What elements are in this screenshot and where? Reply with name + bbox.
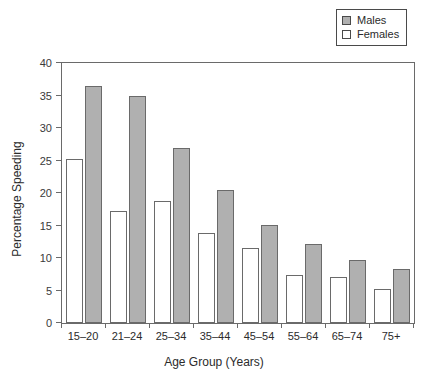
- y-axis-tick-label: 10: [40, 252, 52, 264]
- x-axis-tick: [369, 323, 370, 328]
- bar-males-55-64: [305, 244, 322, 323]
- x-axis-tick-label: 65–74: [332, 330, 363, 342]
- y-axis-tick-label: 15: [40, 220, 52, 232]
- y-axis-title: Percentage Speeding: [10, 119, 24, 279]
- bar-males-75+: [393, 269, 410, 323]
- x-axis-tick: [325, 323, 326, 328]
- legend-swatch-males-icon: [342, 16, 351, 25]
- bar-males-45-54: [261, 225, 278, 323]
- legend-item-females: Females: [342, 27, 399, 41]
- bar-females-35-44: [198, 233, 215, 323]
- x-axis-tick: [281, 323, 282, 328]
- y-axis-tick-label: 0: [46, 317, 52, 329]
- bar-females-15-20: [66, 159, 83, 323]
- y-axis-tick-label: 35: [40, 90, 52, 102]
- plot-area: [61, 62, 415, 324]
- bar-males-25-34: [173, 148, 190, 324]
- bar-males-15-20: [85, 86, 102, 323]
- bar-females-75+: [374, 289, 391, 323]
- bar-males-35-44: [217, 190, 234, 323]
- x-axis-tick-label: 25–34: [156, 330, 187, 342]
- x-axis-tick: [237, 323, 238, 328]
- legend-label-females: Females: [357, 28, 399, 41]
- x-axis-tick-label: 45–54: [244, 330, 275, 342]
- y-axis-tick-label: 25: [40, 155, 52, 167]
- chart-legend: Males Females: [336, 9, 407, 46]
- y-axis-tick-label: 20: [40, 187, 52, 199]
- bar-females-21-24: [110, 211, 127, 323]
- x-axis-tick-label: 15–20: [68, 330, 99, 342]
- legend-label-males: Males: [357, 14, 386, 27]
- x-axis-tick: [105, 323, 106, 328]
- bar-males-21-24: [129, 96, 146, 324]
- legend-item-males: Males: [342, 13, 399, 27]
- x-axis-tick-label: 21–24: [112, 330, 143, 342]
- bar-females-55-64: [286, 275, 303, 323]
- legend-swatch-females-icon: [342, 30, 351, 39]
- x-axis-tick-label: 55–64: [288, 330, 319, 342]
- x-axis-title: Age Group (Years): [0, 355, 428, 369]
- y-axis-tick-label: 30: [40, 122, 52, 134]
- bar-females-65-74: [330, 277, 347, 323]
- chart-page: Males Females 0510152025303540 Percentag…: [0, 0, 428, 377]
- x-axis-tick: [149, 323, 150, 328]
- x-axis-tick: [61, 323, 62, 328]
- x-axis-tick-label: 35–44: [200, 330, 231, 342]
- x-axis-tick: [413, 323, 414, 328]
- y-axis-tick-label: 5: [46, 285, 52, 297]
- bar-males-65-74: [349, 260, 366, 323]
- bar-females-45-54: [242, 248, 259, 323]
- y-axis-tick-label: 40: [40, 57, 52, 69]
- x-axis-tick-label: 75+: [382, 330, 401, 342]
- x-axis-tick: [193, 323, 194, 328]
- bar-females-25-34: [154, 201, 171, 323]
